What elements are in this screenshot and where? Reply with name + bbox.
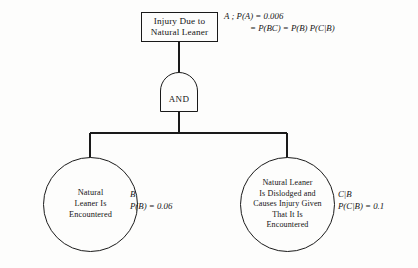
event-c-line-3: Causes Injury Given (253, 199, 321, 210)
event-c-line-4: That It Is (272, 210, 303, 221)
top-event-annotation: A ; P(A) = 0.006 = P(BC) = P(B) P(C|B) (224, 11, 335, 35)
event-b-annotation-line-2: P(B) = 0.06 (130, 201, 172, 213)
event-b-line-1: Natural (78, 188, 104, 199)
fault-tree-diagram: Injury Due to Natural Leaner A ; P(A) = … (0, 0, 418, 268)
event-b-annotation: B P(B) = 0.06 (130, 189, 172, 213)
event-c-annotation-line-2: P(C|B) = 0.1 (338, 201, 384, 213)
event-c-line-2: Is Dislodged and (259, 189, 315, 200)
event-b-annotation-line-1: B (130, 189, 172, 201)
top-event-box: Injury Due to Natural Leaner (141, 12, 218, 42)
top-event-line-1: Injury Due to (154, 16, 205, 27)
event-c-annotation-line-1: C|B (338, 189, 384, 201)
and-gate-label: AND (169, 94, 190, 104)
event-c-annotation: C|B P(C|B) = 0.1 (338, 189, 384, 213)
event-b-line-3: Encountered (69, 210, 112, 221)
and-gate: AND (160, 72, 198, 112)
basic-event-circle-c: Natural Leaner Is Dislodged and Causes I… (240, 157, 335, 252)
basic-event-circle-b: Natural Leaner Is Encountered (43, 157, 138, 252)
event-c-line-1: Natural Leaner (262, 178, 312, 189)
top-event-annotation-line-2: = P(BC) = P(B) P(C|B) (224, 23, 335, 35)
top-event-annotation-line-1: A ; P(A) = 0.006 (224, 11, 335, 23)
top-event-line-2: Natural Leaner (151, 27, 208, 38)
event-c-line-5: Encountered (267, 220, 309, 231)
event-b-line-2: Leaner Is (75, 199, 107, 210)
